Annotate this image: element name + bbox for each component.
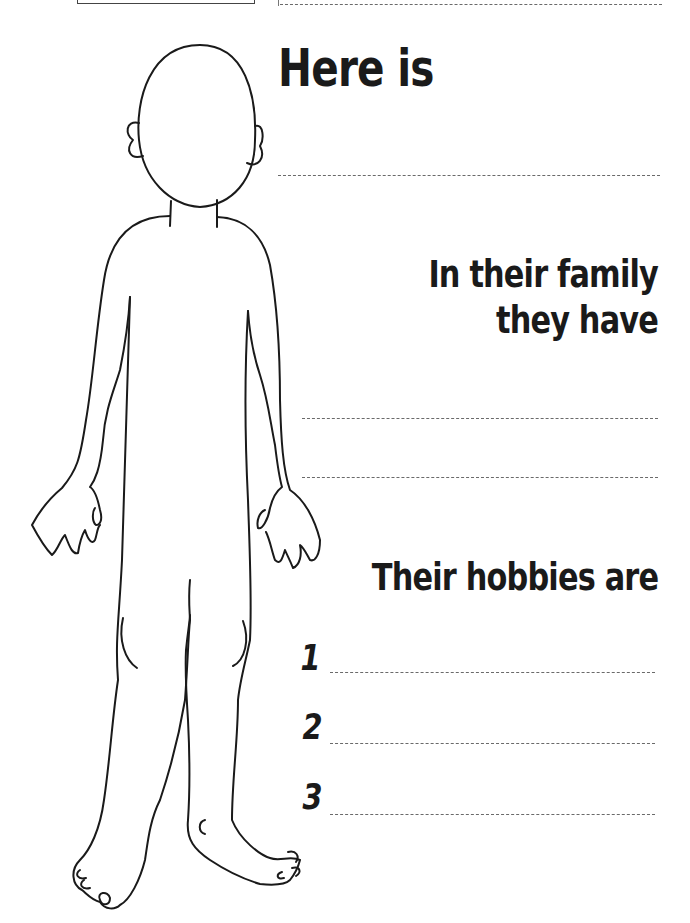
family-answer-line-1[interactable] (302, 418, 658, 419)
hobby-number-1: 1 (301, 637, 321, 678)
family-prompt-line1: In their family (428, 252, 658, 298)
hobby-answer-line-1[interactable] (330, 672, 655, 673)
family-prompt-line2: they have (428, 298, 658, 344)
hobby-number-3: 3 (303, 776, 323, 817)
body-outline-icon (0, 0, 690, 923)
hobbies-prompt-heading: Their hobbies are (372, 556, 658, 599)
family-answer-line-2[interactable] (302, 477, 658, 478)
hobby-answer-line-3[interactable] (330, 814, 655, 815)
hobby-answer-line-2[interactable] (330, 743, 655, 744)
name-prompt-heading: Here is (278, 38, 434, 98)
name-answer-line[interactable] (278, 175, 660, 176)
hobby-number-2: 2 (303, 706, 323, 747)
family-prompt-heading: In their family they have (428, 252, 658, 344)
